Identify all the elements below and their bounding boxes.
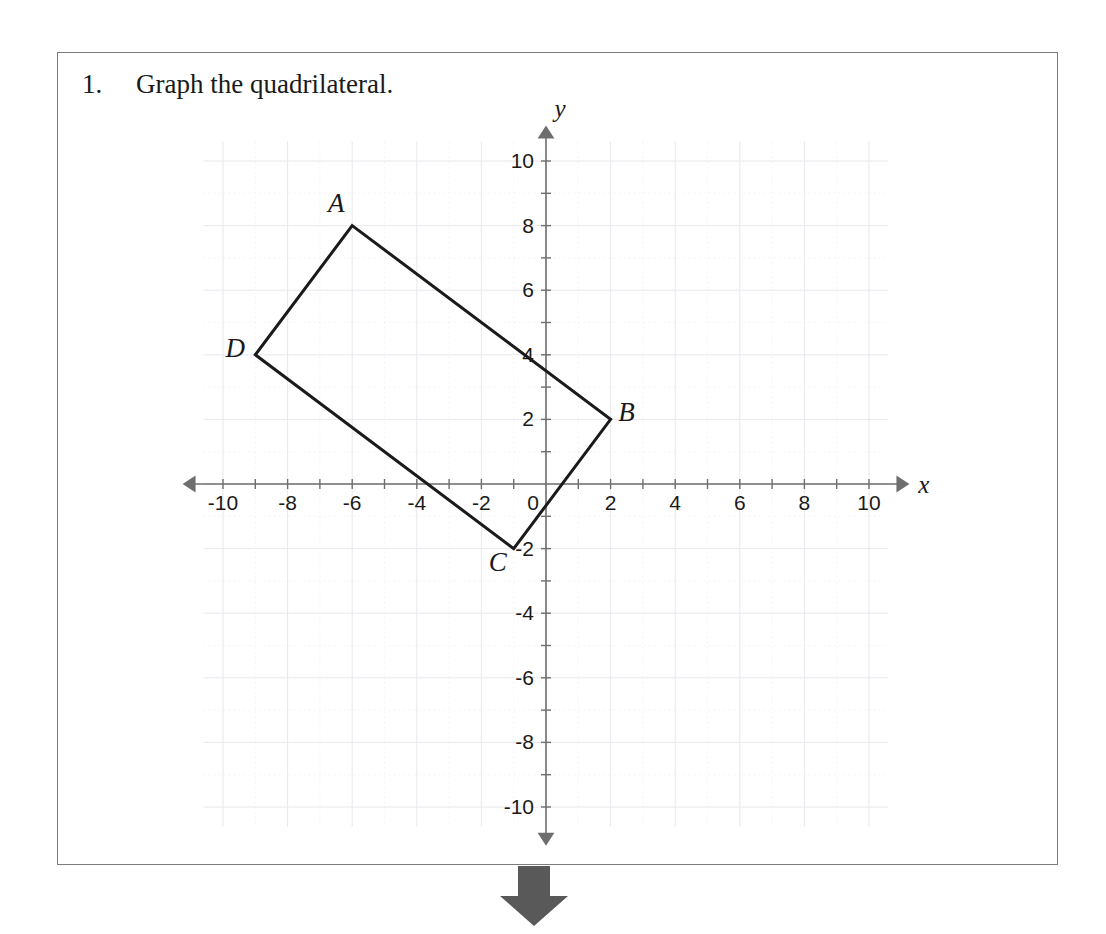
coordinate-plane-svg: -10-8-6-4-20246810108642-2-4-6-8-10 xy A… bbox=[58, 53, 1059, 866]
x-axis-arrow-left bbox=[183, 476, 196, 493]
axis-tick-labels: -10-8-6-4-20246810108642-2-4-6-8-10 bbox=[208, 149, 881, 818]
down-arrow-icon bbox=[497, 866, 571, 928]
worksheet-border-box: 1. Graph the quadrilateral. -10-8-6-4-20… bbox=[57, 52, 1058, 865]
y-axis-arrow-down bbox=[538, 833, 555, 846]
x-axis-tick-label: 4 bbox=[669, 491, 681, 514]
x-axis-tick-label: -2 bbox=[472, 491, 491, 514]
y-axis-tick-label: -2 bbox=[515, 537, 534, 560]
x-axis-tick-label: 8 bbox=[799, 491, 811, 514]
y-axis-tick-label: 10 bbox=[511, 149, 534, 172]
y-axis-label: y bbox=[551, 95, 566, 122]
grid-lines bbox=[204, 142, 889, 827]
x-axis-tick-label: -10 bbox=[208, 491, 238, 514]
x-axis-tick-label: 2 bbox=[605, 491, 617, 514]
vertex-labels: ABCD bbox=[225, 188, 635, 577]
x-axis-tick-label: 10 bbox=[857, 491, 880, 514]
axis-ticks bbox=[223, 161, 869, 807]
x-axis-tick-label: -6 bbox=[343, 491, 362, 514]
x-axis-tick-label: 6 bbox=[734, 491, 746, 514]
x-axis-arrow-right bbox=[896, 476, 909, 493]
problem-text: Graph the quadrilateral. bbox=[136, 69, 393, 100]
problem-number: 1. bbox=[82, 69, 136, 100]
x-axis-label: x bbox=[917, 471, 929, 498]
coordinate-plane: -10-8-6-4-20246810108642-2-4-6-8-10 xy A… bbox=[58, 53, 1059, 866]
y-axis-tick-label: -6 bbox=[515, 666, 534, 689]
y-axis-tick-label: 2 bbox=[522, 407, 534, 430]
vertex-label-b: B bbox=[618, 397, 635, 427]
axis-origin-label: 0 bbox=[527, 491, 539, 514]
y-axis-tick-label: -4 bbox=[515, 601, 534, 624]
y-axis-tick-label: 8 bbox=[522, 214, 534, 237]
y-axis-tick-label: -8 bbox=[515, 730, 534, 753]
x-axis-tick-label: -8 bbox=[278, 491, 297, 514]
axes bbox=[183, 125, 910, 845]
y-axis-tick-label: 4 bbox=[522, 343, 534, 366]
problem-heading: 1. Graph the quadrilateral. bbox=[82, 69, 393, 100]
y-axis-arrow-up bbox=[538, 125, 555, 138]
vertex-label-d: D bbox=[225, 333, 246, 363]
vertex-label-c: C bbox=[489, 547, 508, 577]
axis-names: xy bbox=[551, 95, 929, 498]
worksheet-page: 1. Graph the quadrilateral. -10-8-6-4-20… bbox=[0, 0, 1106, 934]
quadrilateral-shape bbox=[255, 226, 610, 549]
y-axis-tick-label: -10 bbox=[504, 795, 534, 818]
y-axis-tick-label: 6 bbox=[522, 278, 534, 301]
quadrilateral-outline bbox=[255, 226, 610, 549]
vertex-label-a: A bbox=[326, 188, 345, 218]
x-axis-tick-label: -4 bbox=[407, 491, 426, 514]
